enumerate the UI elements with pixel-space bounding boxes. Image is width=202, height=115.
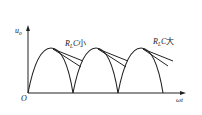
y-axis-label: uo [15,26,22,36]
origin-label: O [21,94,27,103]
capacitor-discharge-lines [53,49,173,67]
waveform-diagram: uo O ωt RLC小 RLC大 [0,0,202,115]
annotation-small-rlc: RLC小 [64,39,86,49]
annotation-large-rlc: RLC大 [152,36,174,47]
x-axis-label: ωt [176,96,184,104]
y-axis-arrow-icon [26,25,30,31]
rectified-wave [28,48,163,93]
x-axis-arrow-icon [180,91,186,95]
